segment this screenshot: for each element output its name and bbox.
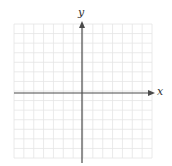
y-axis-arrow-icon — [79, 21, 85, 28]
axes — [14, 21, 155, 163]
grid-lines — [14, 24, 152, 158]
y-axis-label: y — [78, 7, 84, 18]
coordinate-plane: y x — [0, 0, 172, 166]
x-axis-label: x — [157, 86, 163, 97]
grid-graph — [0, 0, 172, 166]
